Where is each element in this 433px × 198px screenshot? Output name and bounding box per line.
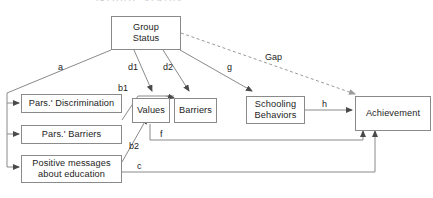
node-barriers[interactable]: Barriers bbox=[174, 98, 217, 123]
cut-off-title: Group Status bbox=[96, 0, 185, 1]
node-achievement[interactable]: Achievement bbox=[355, 96, 431, 131]
node-schooling-behaviors[interactable]: Schooling Behaviors bbox=[246, 96, 305, 124]
edge-label-b1: b1 bbox=[118, 83, 128, 93]
edge-label-d2: d2 bbox=[163, 62, 173, 72]
diagram-canvas: Group Status bbox=[0, 0, 433, 198]
edge-g bbox=[180, 50, 252, 91]
edge-label-d1: d1 bbox=[128, 62, 138, 72]
node-achievement-label: Achievement bbox=[366, 108, 420, 119]
node-group-status[interactable]: Group Status bbox=[111, 16, 181, 50]
edge-f bbox=[150, 124, 363, 140]
node-positive-messages[interactable]: Positive messages about education bbox=[21, 155, 122, 183]
node-pars-barriers-label: Pars.' Barriers bbox=[42, 129, 101, 140]
node-pars-barriers[interactable]: Pars.' Barriers bbox=[21, 125, 122, 144]
edge-label-c: c bbox=[137, 161, 142, 171]
edge-label-f: f bbox=[160, 129, 163, 139]
node-pars-discrimination-label: Pars.' Discrimination bbox=[29, 98, 115, 109]
node-barriers-label: Barriers bbox=[179, 105, 212, 116]
edge-gap bbox=[181, 33, 355, 94]
node-group-status-label: Group Status bbox=[133, 22, 160, 44]
node-pars-discrimination[interactable]: Pars.' Discrimination bbox=[21, 94, 122, 113]
edge-label-g: g bbox=[227, 62, 232, 72]
node-values[interactable]: Values bbox=[132, 98, 170, 123]
node-positive-messages-label: Positive messages about education bbox=[32, 158, 110, 180]
edge-label-gap: Gap bbox=[265, 52, 282, 62]
edge-b2 bbox=[122, 118, 147, 162]
node-schooling-behaviors-label: Schooling Behaviors bbox=[255, 99, 297, 121]
edge-label-h: h bbox=[322, 99, 327, 109]
edge-label-b2: b2 bbox=[129, 141, 139, 151]
edge-label-a: a bbox=[58, 62, 63, 72]
node-values-label: Values bbox=[137, 105, 165, 116]
